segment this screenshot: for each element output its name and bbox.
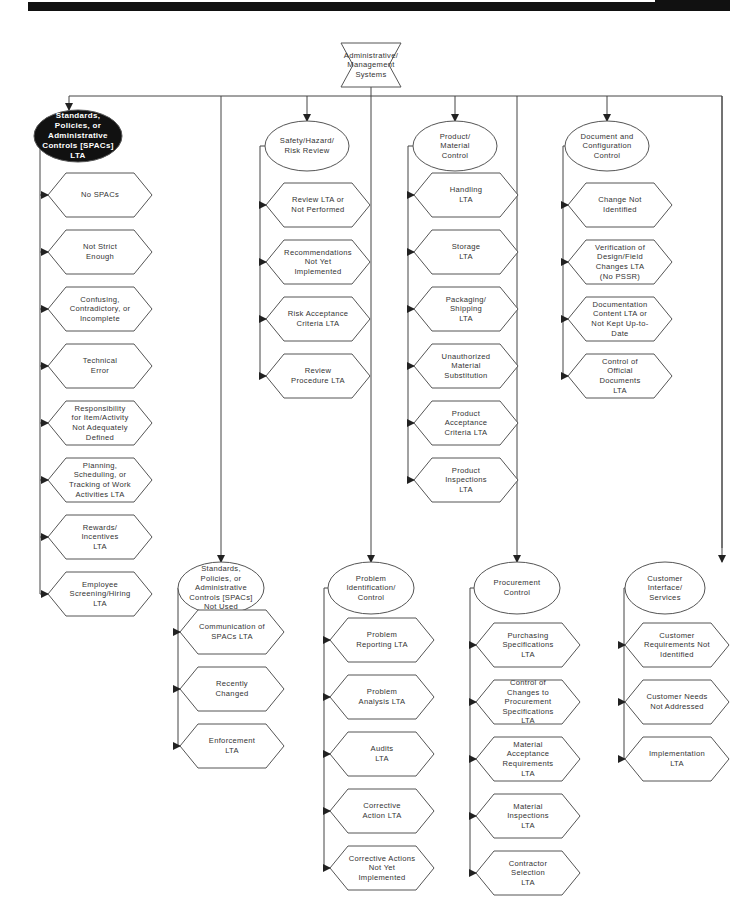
branch-product-child-3-label: Unauthorized Material Substitution [421, 345, 511, 387]
branch-spacs-lta-child-5-label: Planning, Scheduling, or Tracking of Wor… [55, 459, 145, 501]
branch-product-child-0-label: Handling LTA [421, 174, 511, 216]
branch-document-child-2-label: Documentation Content LTA or Not Kept Up… [575, 298, 665, 340]
branch-document-child-0-label: Change Not Identified [575, 184, 665, 226]
branch-problem-child-1-label: Problem Analysis LTA [337, 676, 427, 718]
branch-spacs-not-used-child-0-label: Communication of SPACs LTA [187, 611, 277, 653]
branch-procurement-child-3-label: Material Inspections LTA [483, 795, 573, 837]
branch-problem-child-2-label: Audits LTA [337, 733, 427, 775]
header-bar [28, 0, 730, 11]
branch-product-child-4-label: Product Acceptance Criteria LTA [421, 402, 511, 444]
branch-spacs-not-used-label: Standards, Policies, or Administrative C… [181, 564, 261, 612]
branch-product-child-5-label: Product Inspections LTA [421, 459, 511, 501]
branch-safety-label: Safety/Hazard/ Risk Review [268, 123, 346, 169]
branch-document-child-3-label: Control of Official Documents LTA [575, 355, 665, 397]
branch-spacs-lta-child-4-label: Responsibility for Item/Activity Not Ade… [55, 402, 145, 444]
branch-customer-child-1-label: Customer Needs Not Addressed [632, 681, 722, 723]
branch-customer-child-2-label: Implementation LTA [632, 738, 722, 780]
branch-spacs-lta-child-0-label: No SPACs [55, 174, 145, 216]
branch-problem-label: Problem Identification/ Control [331, 564, 411, 612]
branch-spacs-not-used-child-2-label: Enforcement LTA [187, 725, 277, 767]
branch-procurement-child-4-label: Contractor Selection LTA [483, 852, 573, 894]
branch-product-child-2-label: Packaging/ Shipping LTA [421, 288, 511, 330]
branch-document-label: Document and Configuration Control [568, 123, 646, 169]
branch-spacs-lta-child-3-label: Technical Error [55, 345, 145, 387]
branch-procurement-child-2-label: Material Acceptance Requirements LTA [483, 738, 573, 780]
branch-problem-child-3-label: Corrective Action LTA [337, 790, 427, 832]
branch-document-child-1-label: Verification of Design/Field Changes LTA… [575, 241, 665, 283]
branch-procurement-child-1-label: Control of Changes to Procurement Specif… [483, 681, 573, 723]
branch-safety-child-0-label: Review LTA or Not Performed [273, 184, 363, 226]
branch-safety-child-1-label: Recommendations Not Yet Implemented [273, 241, 363, 283]
root-node-label: Administrative/ Management Systems [341, 45, 401, 85]
branch-customer-label: Customer Interface/ Services [628, 564, 702, 612]
branch-spacs-lta-label: Standards, Policies, or Administrative C… [37, 112, 119, 160]
branch-product-child-1-label: Storage LTA [421, 231, 511, 273]
branch-spacs-not-used-child-1-label: Recently Changed [187, 668, 277, 710]
branch-spacs-lta-child-2-label: Confusing, Contradictory, or Incomplete [55, 288, 145, 330]
branch-spacs-lta-child-7-label: Employee Screening/Hiring LTA [55, 573, 145, 615]
branch-safety-child-2-label: Risk Acceptance Criteria LTA [273, 298, 363, 340]
branch-safety-child-3-label: Review Procedure LTA [273, 355, 363, 397]
branch-procurement-label: Procurement Control [477, 564, 557, 612]
branch-customer-child-0-label: Customer Requirements Not Identified [632, 624, 722, 666]
branch-problem-child-4-label: Corrective Actions Not Yet Implemented [337, 847, 427, 889]
branch-product-label: Product/ Material Control [416, 123, 494, 169]
branch-spacs-lta-child-1-label: Not Strict Enough [55, 231, 145, 273]
branch-procurement-child-0-label: Purchasing Specifications LTA [483, 624, 573, 666]
branch-spacs-lta-child-6-label: Rewards/ Incentives LTA [55, 516, 145, 558]
branch-problem-child-0-label: Problem Reporting LTA [337, 619, 427, 661]
